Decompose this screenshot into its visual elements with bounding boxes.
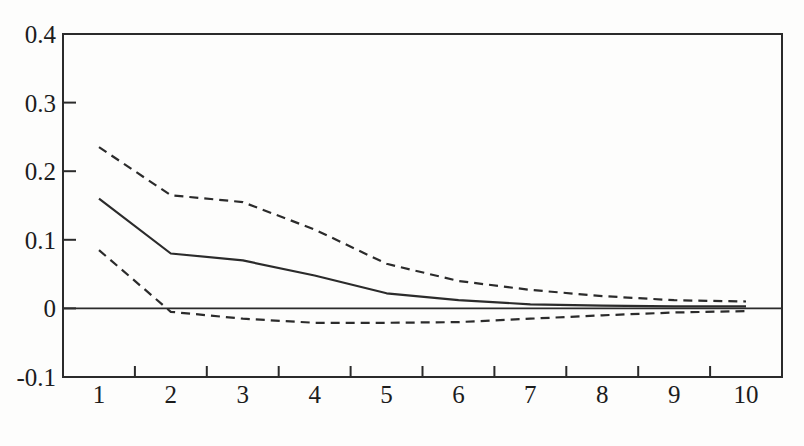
y-axis-tick-label: 0.2 (25, 158, 56, 185)
x-axis-tick-label: 9 (668, 381, 681, 408)
x-axis-tick-label: 4 (308, 381, 321, 408)
x-axis-tick-label: 6 (452, 381, 465, 408)
impulse-response-figure: -0.100.10.20.30.412345678910 (0, 0, 804, 446)
y-axis: -0.100.10.20.30.4 (16, 21, 76, 391)
series-lower-band (99, 250, 746, 323)
chart-canvas: -0.100.10.20.30.412345678910 (0, 0, 804, 446)
series-upper-band (99, 147, 746, 301)
x-axis-tick-label: 3 (237, 381, 250, 408)
x-axis-tick-label: 8 (596, 381, 609, 408)
y-axis-tick-label: 0 (44, 295, 57, 322)
x-axis-tick-label: 5 (380, 381, 393, 408)
plot-frame (63, 34, 782, 377)
series-point-estimate (99, 199, 746, 307)
y-axis-tick-label: -0.1 (16, 364, 56, 391)
x-axis-tick-label: 7 (524, 381, 537, 408)
y-axis-tick-label: 0.1 (25, 227, 56, 254)
y-axis-tick-label: 0.3 (25, 90, 56, 117)
y-axis-tick-label: 0.4 (25, 21, 57, 48)
x-axis-tick-label: 2 (165, 381, 178, 408)
x-axis-tick-label: 10 (734, 381, 759, 408)
x-axis-tick-label: 1 (93, 381, 106, 408)
x-axis: 12345678910 (93, 366, 759, 408)
